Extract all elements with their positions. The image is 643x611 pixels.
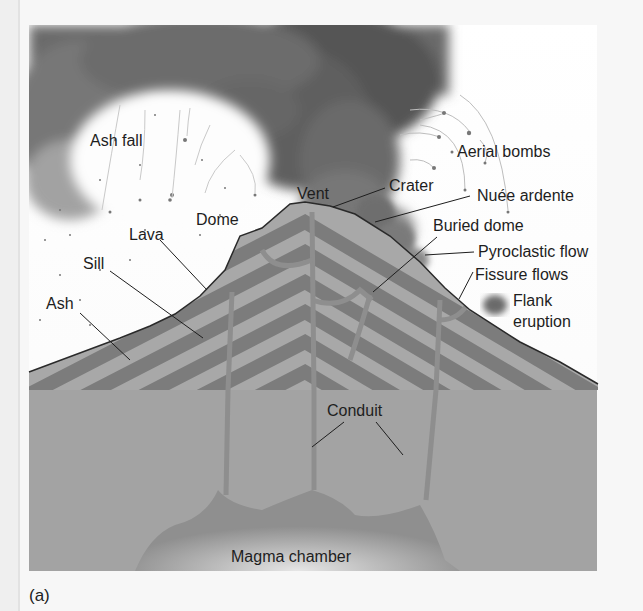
label-nuee-ardente: Nuée ardente xyxy=(477,188,574,204)
label-ash: Ash xyxy=(46,296,74,312)
label-vent: Vent xyxy=(297,186,329,202)
flank-eruption-puff xyxy=(483,295,507,315)
label-crater: Crater xyxy=(389,178,433,194)
label-lava: Lava xyxy=(129,227,164,243)
figure-caption: (a) xyxy=(29,586,50,606)
label-sill: Sill xyxy=(83,256,104,272)
label-magma-chamber: Magma chamber xyxy=(231,549,351,565)
label-aerial-bombs: Aerial bombs xyxy=(457,144,550,160)
label-flank-eruption-1: Flank xyxy=(513,293,552,309)
ground-block xyxy=(29,390,597,571)
label-flank-eruption-2: eruption xyxy=(513,314,571,330)
label-conduit: Conduit xyxy=(327,403,382,419)
label-dome: Dome xyxy=(196,212,239,228)
label-fissure-flows: Fissure flows xyxy=(475,267,568,283)
label-ash-fall: Ash fall xyxy=(90,133,142,149)
label-buried-dome: Buried dome xyxy=(433,218,524,234)
label-pyroclastic-flow: Pyroclastic flow xyxy=(478,244,588,260)
